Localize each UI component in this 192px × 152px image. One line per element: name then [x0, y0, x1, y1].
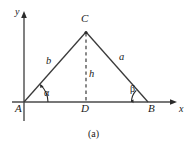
figure-caption: (a): [88, 128, 99, 139]
y-axis-label: y: [15, 7, 19, 17]
vertex-c-dot: [85, 31, 88, 34]
side-label-h: h: [89, 69, 94, 80]
vertex-label-d: D: [81, 103, 89, 114]
vertex-label-a: A: [15, 103, 22, 114]
side-label-a: a: [119, 52, 124, 63]
x-axis-label: x: [179, 104, 183, 114]
side-label-b: b: [46, 56, 51, 67]
side-b-line: [24, 32, 86, 102]
geometry-figure: y x A B C D b a h α β (a): [0, 0, 192, 152]
vertex-label-c: C: [81, 13, 88, 24]
side-a-line: [86, 32, 148, 102]
vertex-label-b: B: [148, 103, 155, 114]
angle-label-alpha: α: [44, 88, 49, 98]
angle-label-beta: β: [130, 84, 135, 94]
y-axis: [21, 11, 27, 121]
